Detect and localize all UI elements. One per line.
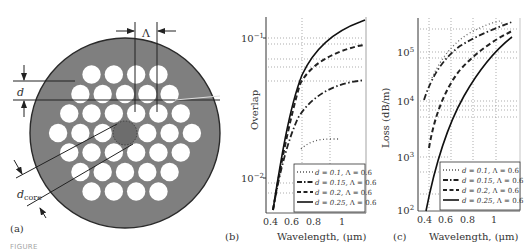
xtick-c-1: 1	[491, 214, 497, 225]
air-hole	[82, 65, 100, 83]
figure-canvas: Λ d dcore (a)	[0, 0, 531, 252]
air-hole	[149, 65, 167, 83]
svg-text:d = 0.2, Λ = 0.6: d = 0.2, Λ = 0.6	[462, 187, 519, 195]
panel-a-diagram: Λ d dcore (a)	[10, 22, 220, 234]
panel-c-loss-chart: 105 104 103 102 0.4 0.6 0.8 1 Loss (dB/m…	[380, 18, 524, 242]
air-hole	[183, 124, 201, 142]
legend-b: d = 0.1, Λ = 0.6 d = 0.15, Λ = 0.6 d = 0…	[294, 164, 377, 212]
air-hole	[138, 163, 156, 181]
core-diameter-label: dcore	[17, 188, 42, 202]
air-hole	[116, 163, 134, 181]
panel-b-label: (b)	[225, 231, 239, 242]
xtick-b-0.6: 0.6	[284, 216, 299, 227]
pitch-label: Λ	[141, 27, 151, 40]
panel-b-overlap-chart: 10−1 10−2 0.4 0.6 0.8 1 Overlap Waveleng…	[225, 17, 377, 242]
xtick-b-1: 1	[339, 216, 345, 227]
air-hole	[82, 182, 100, 200]
ytick-c-2: 102	[397, 204, 414, 216]
xlabel-c: Wavelength, (μm)	[429, 231, 519, 242]
curve-d-0.1	[301, 139, 340, 149]
ytick-c-4: 104	[397, 95, 415, 107]
air-hole	[149, 143, 167, 161]
air-hole	[127, 65, 145, 83]
air-hole	[160, 163, 178, 181]
xtick-c-0.4: 0.4	[417, 214, 432, 225]
air-hole	[71, 124, 89, 142]
air-hole	[60, 104, 78, 122]
xtick-b-0.8: 0.8	[306, 216, 321, 227]
air-hole	[149, 182, 167, 200]
air-hole	[105, 104, 123, 122]
air-hole	[105, 182, 123, 200]
figure-caption: FIGURE	[10, 243, 38, 251]
xlabel-b: Wavelength, (μm)	[277, 231, 367, 242]
air-hole	[172, 104, 190, 122]
hole-diameter-label: d	[17, 86, 24, 99]
svg-text:d = 0.25, Λ = 0.6: d = 0.25, Λ = 0.6	[462, 197, 524, 205]
figure: Λ d dcore (a)	[0, 0, 531, 252]
ylabel-b: Overlap	[249, 90, 260, 130]
air-hole	[127, 182, 145, 200]
svg-text:d = 0.1, Λ = 0.6: d = 0.1, Λ = 0.6	[462, 167, 519, 175]
xtick-c-0.8: 0.8	[460, 214, 475, 225]
ytick-c-3: 103	[397, 151, 414, 163]
legend-c: d = 0.1, Λ = 0.6 d = 0.15, Λ = 0.6 d = 0…	[440, 162, 524, 210]
svg-text:d = 0.15, Λ = 0.6: d = 0.15, Λ = 0.6	[315, 179, 377, 187]
ytick-b-2: 10−2	[241, 172, 264, 184]
air-hole	[127, 104, 145, 122]
air-hole	[149, 104, 167, 122]
air-hole	[160, 124, 178, 142]
svg-text:d = 0.1, Λ = 0.6: d = 0.1, Λ = 0.6	[315, 169, 372, 177]
air-hole	[172, 143, 190, 161]
xtick-c-0.6: 0.6	[438, 214, 453, 225]
xtick-b-0.4: 0.4	[263, 216, 278, 227]
svg-text:d = 0.2, Λ = 0.6: d = 0.2, Λ = 0.6	[315, 189, 372, 197]
ylabel-c: Loss (dB/m)	[380, 87, 391, 148]
air-hole	[94, 124, 112, 142]
air-hole	[49, 124, 67, 142]
panel-a-label: (a)	[10, 223, 24, 234]
air-hole	[105, 65, 123, 83]
panel-c-label: (c)	[393, 231, 407, 242]
svg-text:d = 0.25, Λ = 0.6: d = 0.25, Λ = 0.6	[315, 199, 377, 207]
ytick-c-5: 105	[397, 46, 414, 58]
ytick-b-1: 10−1	[241, 32, 264, 44]
air-hole	[138, 124, 156, 142]
air-hole	[82, 104, 100, 122]
air-hole	[82, 143, 100, 161]
svg-text:d = 0.15, Λ = 0.6: d = 0.15, Λ = 0.6	[462, 177, 524, 185]
